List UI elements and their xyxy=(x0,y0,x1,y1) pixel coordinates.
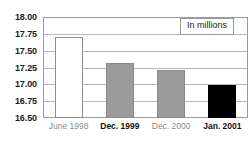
y-axis: 18.0017.7517.5017.2517.0016.7516.50 xyxy=(0,17,40,118)
bar xyxy=(208,85,236,118)
y-axis-tick-label: 16.50 xyxy=(15,113,37,123)
x-axis-tick-label: June 1998 xyxy=(49,121,89,131)
y-axis-tick-label: 17.75 xyxy=(15,29,37,39)
legend-label: In millions xyxy=(187,20,227,30)
x-axis-tick-label: Dec. 1999 xyxy=(100,121,139,131)
bar xyxy=(106,63,134,118)
y-axis-tick-label: 18.00 xyxy=(15,12,37,22)
y-axis-tick-label: 17.00 xyxy=(15,79,37,89)
y-axis-tick-label: 17.25 xyxy=(15,63,37,73)
x-axis-tick-label: Jan. 2001 xyxy=(203,121,241,131)
x-axis-tick-label: Dec. 2000 xyxy=(152,121,191,131)
bar xyxy=(157,70,185,118)
bar xyxy=(55,37,83,118)
x-axis: June 1998Dec. 1999Dec. 2000Jan. 2001 xyxy=(43,121,248,135)
bar-chart: 18.0017.7517.5017.2517.0016.7516.50 In m… xyxy=(0,0,252,147)
y-axis-tick-label: 17.50 xyxy=(15,46,37,56)
legend: In millions xyxy=(180,18,234,35)
y-axis-tick-label: 16.75 xyxy=(15,96,37,106)
